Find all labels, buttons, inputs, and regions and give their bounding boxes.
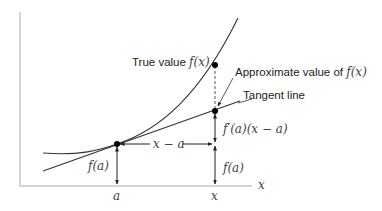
- tick-a-label: a: [113, 189, 120, 203]
- approx-pointer-arrow: [218, 78, 233, 106]
- tangent-line-label: Tangent line: [243, 89, 305, 101]
- fa-left-label: f(a): [87, 159, 109, 173]
- tick-x-label: x: [211, 189, 218, 203]
- x-minus-a-label: x − a: [153, 137, 185, 151]
- point-a: [114, 141, 120, 147]
- fprime-term-label: f′(a)(x − a): [222, 122, 288, 136]
- tangent-line: [43, 101, 240, 171]
- point-approx-value: [212, 108, 218, 114]
- function-curve: [43, 18, 238, 154]
- point-true-value: [212, 62, 218, 68]
- fa-right-label: f(a): [222, 161, 244, 175]
- x-axis-label: x: [258, 178, 265, 192]
- true-value-label: True value f(x): [132, 55, 210, 69]
- approx-value-label: Approximate value of f(x): [235, 65, 367, 79]
- tangent-approximation-diagram: True value f(x) Approximate value of f(x…: [0, 0, 382, 211]
